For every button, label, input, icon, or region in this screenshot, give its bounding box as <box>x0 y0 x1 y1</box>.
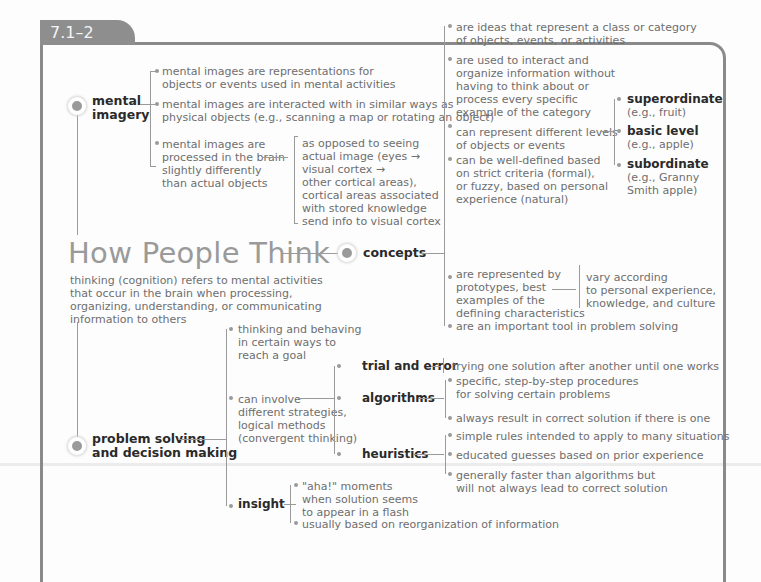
detail-text: when solution seems <box>302 493 418 506</box>
connector <box>552 289 576 290</box>
problem-solving-node-icon <box>68 437 86 455</box>
detail-text: trying one solution after another until … <box>452 360 719 373</box>
list-item: mental images are representations for <box>162 65 374 78</box>
detail-text: with stored knowledge <box>302 202 427 215</box>
bullet-icon <box>337 452 341 456</box>
detail-text: simple rules intended to apply to many s… <box>456 430 730 443</box>
list-item: are represented by <box>456 268 561 281</box>
level-name: basic level <box>627 124 699 138</box>
detail-text: cortical areas associated <box>302 189 439 202</box>
bracket <box>334 366 335 454</box>
level-name: superordinate <box>627 92 723 106</box>
list-item: objects or events used in mental activit… <box>162 78 396 91</box>
list-item: reach a goal <box>238 349 306 362</box>
list-item: defining characteristics <box>456 307 585 320</box>
definition-text: that occur in the brain when processing, <box>70 287 292 300</box>
spine-bottom <box>77 322 78 440</box>
level-example: (e.g., fruit) <box>627 106 686 119</box>
list-item: process every specific <box>456 93 578 106</box>
concepts-label: concepts <box>363 246 426 260</box>
bullet-icon <box>448 324 452 328</box>
connector <box>294 136 298 137</box>
detail-text: will not always lead to correct solution <box>456 482 668 495</box>
detail-text: specific, step-by-step procedures <box>456 375 638 388</box>
detail-text: educated guesses based on prior experien… <box>456 449 703 462</box>
mental-imagery-node-icon <box>68 97 86 115</box>
connector <box>294 223 298 224</box>
list-item: mental images are interacted with in sim… <box>162 98 454 111</box>
definition-text: thinking (cognition) refers to mental ac… <box>70 274 323 287</box>
list-item: of objects, events, or activities <box>456 34 625 47</box>
list-item: can be well-defined based <box>456 154 600 167</box>
detail-text: as opposed to seeing <box>302 137 419 150</box>
list-item: (convergent thinking) <box>238 432 357 445</box>
level-name: subordinate <box>627 157 709 171</box>
detail-text: knowledge, and culture <box>586 297 715 310</box>
detail-text: visual cortex → <box>302 163 385 176</box>
bracket <box>294 136 295 224</box>
list-item: in certain ways to <box>238 336 336 349</box>
connector <box>418 398 444 399</box>
problem-solving-label-2: and decision making <box>92 446 237 460</box>
bullet-icon <box>294 521 298 525</box>
detail-text: for solving certain problems <box>456 388 610 401</box>
detail-text: other cortical areas), <box>302 176 417 189</box>
connector <box>414 454 444 455</box>
detail-text: generally faster than algorithms but <box>456 469 655 482</box>
bullet-icon <box>448 433 452 437</box>
bullet-icon <box>229 504 233 508</box>
list-item: experience (natural) <box>456 193 568 206</box>
connector <box>420 253 444 254</box>
list-item: organize information without <box>456 67 615 80</box>
connector <box>178 439 226 440</box>
bullet-icon <box>448 472 452 476</box>
bullet-icon <box>229 327 233 331</box>
bullet-icon <box>155 141 159 145</box>
list-item: examples of the <box>456 294 545 307</box>
bullet-icon <box>448 275 452 279</box>
bullet-icon <box>617 97 621 101</box>
connector <box>140 104 156 105</box>
bracket <box>579 265 580 308</box>
list-item: thinking and behaving <box>238 323 361 336</box>
bracket <box>445 435 446 474</box>
insight-label: insight <box>238 497 285 511</box>
spine-top <box>77 105 78 235</box>
bullet-icon <box>337 396 341 400</box>
list-item: can involve <box>238 393 301 406</box>
bullet-icon <box>155 69 159 73</box>
mental-imagery-label-1: mental <box>92 94 141 108</box>
detail-text: send info to visual cortex <box>302 215 441 228</box>
list-item: are an important tool in problem solving <box>456 320 678 333</box>
bullet-icon <box>155 102 159 106</box>
bullet-icon <box>448 378 452 382</box>
level-example: (e.g., apple) <box>627 138 694 151</box>
level-example: (e.g., Granny <box>627 171 699 184</box>
connector <box>262 157 288 158</box>
list-item: different strategies, <box>238 406 347 419</box>
bullet-icon <box>448 452 452 456</box>
level-example: Smith apple) <box>627 184 697 197</box>
detail-text: always result in correct solution if the… <box>456 412 710 425</box>
list-item: prototypes, best <box>456 281 546 294</box>
definition-text: organizing, understanding, or communicat… <box>70 300 322 313</box>
connector <box>431 366 441 367</box>
bullet-icon <box>617 129 621 133</box>
bracket <box>444 26 445 326</box>
section-tab: 7.1–2 <box>40 20 135 45</box>
bracket <box>445 380 446 418</box>
bullet-icon <box>448 24 452 28</box>
bullet-icon <box>617 163 621 167</box>
bracket <box>150 71 151 167</box>
list-item: are ideas that represent a class or cate… <box>456 21 697 34</box>
detail-text: usually based on reorganization of infor… <box>302 518 559 531</box>
connector <box>600 131 614 132</box>
bracket <box>614 99 615 165</box>
bullet-icon <box>229 396 233 400</box>
bullet-icon <box>448 124 452 128</box>
detail-text: vary according <box>586 271 668 284</box>
bullet-icon <box>448 57 452 61</box>
connector <box>298 398 334 399</box>
list-item: or fuzzy, based on personal <box>456 180 608 193</box>
mental-imagery-label-2: imagery <box>92 108 149 122</box>
